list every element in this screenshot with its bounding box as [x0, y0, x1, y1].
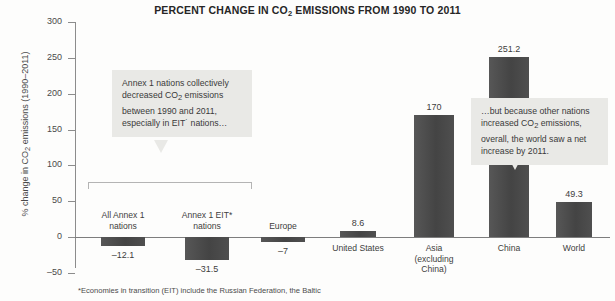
chart-figure: PERCENT CHANGE IN CO2 EMISSIONS FROM 199… [0, 0, 615, 301]
y-axis-tick-label: –50 [16, 267, 62, 277]
annex-group-bracket [88, 182, 252, 189]
callout-left-line3: between 1990 and 2011, [122, 105, 243, 117]
bar-value-label: 49.3 [534, 189, 614, 199]
callout-right-line2: increased CO2 emissions, [481, 117, 599, 132]
y-axis-tick [68, 22, 75, 23]
callout-left-line4: especially in EIT˙ nations… [122, 117, 243, 129]
bar [556, 202, 592, 237]
category-label: All Annex 1nations [78, 210, 168, 231]
y-axis-tick-label: 50 [16, 195, 62, 205]
callout-right-line1: …but because other nations [481, 105, 599, 117]
bar-value-label: –12.1 [83, 250, 163, 260]
category-label-line: All Annex 1 [78, 210, 168, 221]
callout-left-tail [154, 140, 168, 153]
category-label: Europe [238, 221, 328, 232]
callout-left-line1: Annex 1 nations collectively [122, 77, 243, 89]
callout-left-line2: decreased CO2 emissions [122, 89, 243, 104]
bar-value-label: 251.2 [469, 44, 549, 54]
footnote: *Economies in transition (EIT) include t… [78, 286, 321, 295]
y-axis-tick-label: 0 [16, 231, 62, 241]
callout-right-line2-after: emissions, [538, 118, 581, 128]
callout-annex-decrease: Annex 1 nations collectively decreased C… [112, 70, 252, 137]
callout-left-line2-before: decreased CO [122, 90, 178, 100]
chart-title-after: EMISSIONS FROM 1990 TO 2011 [292, 4, 461, 16]
y-axis-tick [68, 237, 75, 238]
y-axis-tick-label: 150 [16, 124, 62, 134]
bar-value-label: –7 [243, 246, 323, 256]
callout-right-line3: overall, the world saw a net [481, 133, 599, 145]
y-axis-tick [68, 130, 75, 131]
callout-left-line2-after: emissions [182, 90, 223, 100]
category-label-line: nations [78, 221, 168, 232]
y-axis-tick-label: 100 [16, 159, 62, 169]
callout-right-line4: increase by 2011. [481, 145, 599, 157]
callout-right-tail [508, 157, 522, 170]
bar [414, 115, 454, 237]
category-label-line: (excluding [389, 254, 479, 265]
bar [101, 237, 145, 246]
y-axis-tick-label: 200 [16, 88, 62, 98]
y-axis-tick [68, 201, 75, 202]
callout-world-increase: …but because other nations increased CO2… [471, 98, 608, 165]
bar [261, 237, 305, 242]
y-axis-tick [68, 94, 75, 95]
callout-right-line2-before: increased CO [481, 118, 534, 128]
y-axis-tick-label: 300 [16, 16, 62, 26]
y-axis-tick [68, 165, 75, 166]
category-label-line: Annex 1 EIT* [162, 210, 252, 221]
bar-value-label: –31.5 [167, 264, 247, 274]
bar-value-label: 8.6 [318, 218, 398, 228]
chart-title: PERCENT CHANGE IN CO2 EMISSIONS FROM 199… [0, 4, 615, 18]
category-label-line: Europe [238, 221, 328, 232]
chart-title-before: PERCENT CHANGE IN CO [154, 4, 288, 16]
category-label: World [529, 243, 615, 254]
category-label-line: China) [389, 264, 479, 275]
y-axis-label-subscript: 2 [23, 147, 32, 151]
y-axis-tick [68, 273, 75, 274]
category-label-line: World [529, 243, 615, 254]
bar [185, 237, 229, 260]
y-axis-tick-label: 250 [16, 52, 62, 62]
bar [340, 231, 376, 237]
bar-value-label: 170 [394, 102, 474, 112]
y-axis-tick [68, 58, 75, 59]
